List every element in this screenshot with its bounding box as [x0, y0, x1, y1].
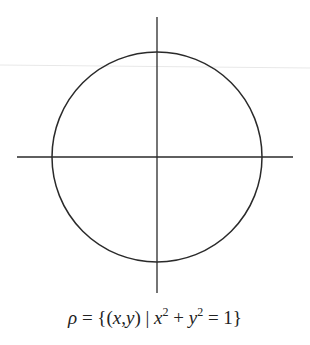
- caption-exp2: 2: [197, 305, 203, 319]
- caption-exp1: 2: [163, 305, 169, 319]
- set-definition-caption: ρ = {(x,y) | x2 + y2 = 1}: [0, 306, 310, 329]
- caption-x: x: [113, 307, 121, 328]
- unit-circle-figure: [0, 0, 310, 345]
- caption-mid: ) |: [134, 307, 154, 328]
- faint-scan-line: [0, 65, 310, 68]
- caption-rhs: = 1}: [203, 307, 242, 328]
- caption-plus: +: [169, 307, 189, 328]
- caption-eq: = {(: [77, 307, 113, 328]
- rho-symbol: ρ: [68, 307, 77, 328]
- caption-x2: x: [154, 307, 162, 328]
- caption-y2: y: [189, 307, 197, 328]
